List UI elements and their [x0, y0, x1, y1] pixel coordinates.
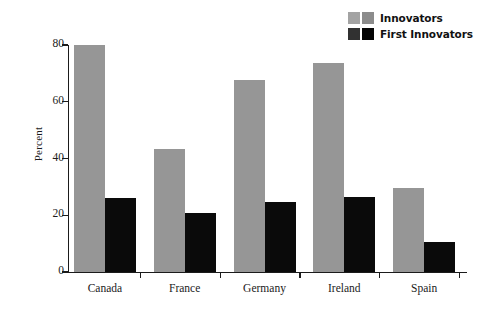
x-axis-category-label: Ireland	[328, 282, 361, 294]
x-axis-tick-mark	[220, 272, 221, 278]
y-axis-tick-label: 0	[58, 264, 64, 276]
bar-canada-innovators	[74, 45, 105, 272]
x-axis-category-label: France	[169, 282, 200, 294]
bar-ireland-first-innovators	[344, 197, 375, 272]
x-axis-tick-mark	[379, 272, 380, 278]
bar-france-first-innovators	[185, 213, 216, 272]
y-axis-tick-label: 20	[53, 207, 65, 219]
x-axis-category-label: Canada	[88, 282, 122, 294]
bar-spain-first-innovators	[424, 242, 455, 272]
y-axis-tick-label: 60	[53, 94, 65, 106]
bar-chart-figure: Innovators First Innovators Percent 0204…	[0, 0, 478, 313]
plot-area: Percent 020406080 CanadaFranceGermanyIre…	[0, 0, 478, 313]
x-axis-tick-mark	[459, 272, 460, 278]
x-axis-category-label: Spain	[411, 282, 437, 294]
bar-ireland-innovators	[313, 63, 344, 272]
bar-france-innovators	[154, 149, 185, 272]
y-axis-line	[68, 45, 69, 273]
y-axis-title: Percent	[32, 104, 44, 184]
y-axis-tick-label: 80	[53, 37, 65, 49]
bar-germany-innovators	[234, 80, 265, 272]
y-axis-tick-label: 40	[53, 151, 65, 163]
x-axis-line	[68, 272, 467, 273]
bar-germany-first-innovators	[265, 202, 296, 272]
bar-spain-innovators	[393, 188, 424, 272]
x-axis-category-label: Germany	[243, 282, 286, 294]
bar-canada-first-innovators	[105, 198, 136, 272]
x-axis-tick-mark	[299, 272, 300, 278]
x-axis-tick-mark	[140, 272, 141, 278]
